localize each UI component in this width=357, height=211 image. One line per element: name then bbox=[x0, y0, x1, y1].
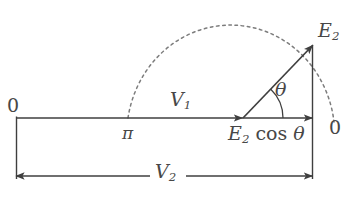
dashed-locus-arc bbox=[128, 25, 334, 122]
cos-text: cos bbox=[255, 122, 287, 144]
theta-label: θ bbox=[275, 80, 286, 99]
v1-symbol: V bbox=[170, 88, 184, 110]
e2-label: E2 bbox=[318, 21, 339, 42]
v1-subscript: 1 bbox=[184, 98, 192, 112]
cos-theta-argument: θ bbox=[293, 122, 304, 144]
e2-symbol: E bbox=[318, 19, 332, 41]
origin-left-label: 0 bbox=[7, 96, 19, 115]
v1-label: V1 bbox=[170, 90, 191, 111]
figure-canvas: 0 0 V1 V2 π E2 θ E2 cos θ bbox=[0, 0, 357, 211]
e2-subscript: 2 bbox=[332, 29, 340, 43]
pi-symbol: π bbox=[122, 123, 133, 143]
v2-symbol: V bbox=[155, 160, 169, 182]
theta-symbol: θ bbox=[275, 78, 286, 100]
v2-subscript: 2 bbox=[169, 170, 177, 184]
e2-cos-symbol: E bbox=[228, 122, 242, 144]
e2-cos-theta-label: E2 cos θ bbox=[228, 124, 305, 145]
v2-label: V2 bbox=[155, 162, 176, 183]
pi-label: π bbox=[122, 125, 133, 142]
origin-right-label: 0 bbox=[329, 118, 341, 137]
